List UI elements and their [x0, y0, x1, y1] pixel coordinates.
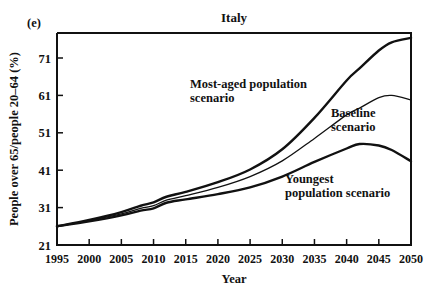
x-tick-label: 2030 — [270, 252, 294, 266]
y-tick-label: 61 — [39, 89, 52, 103]
x-tick-label: 2020 — [206, 252, 230, 266]
y-tick-label: 71 — [39, 52, 52, 66]
youngest-label-line: Youngest — [285, 172, 334, 186]
baseline-label-line: scenario — [331, 120, 375, 134]
most-aged-label: Most-aged populationscenario — [190, 77, 307, 105]
x-tick-label: 2025 — [238, 252, 262, 266]
most-aged-label-line: scenario — [190, 91, 234, 105]
x-tick-label: 2045 — [367, 252, 391, 266]
x-tick-label: 2005 — [109, 252, 133, 266]
x-axis-title: Year — [222, 272, 247, 286]
youngest-label: Youngestpopulation scenario — [285, 172, 390, 200]
figure-panel-e: (e) Italy 213141516171 19952000200520102… — [0, 0, 431, 296]
x-tick-label: 1995 — [45, 252, 69, 266]
baseline-label: Baselinescenario — [331, 106, 376, 134]
chart-title: Italy — [221, 10, 248, 25]
plot-frame — [57, 33, 411, 245]
x-tick-label: 2035 — [302, 252, 326, 266]
y-axis-title: People over 65/people 20–64 (%) — [7, 52, 21, 226]
x-tick-label: 2000 — [77, 252, 101, 266]
youngest-label-line: population scenario — [285, 186, 390, 200]
x-tick-label: 2010 — [142, 252, 166, 266]
panel-label: (e) — [27, 16, 41, 30]
x-tick-label: 2040 — [335, 252, 359, 266]
most-aged-label-line: Most-aged population — [190, 77, 307, 91]
x-tick-label: 2015 — [174, 252, 198, 266]
x-tick-label: 2050 — [399, 252, 423, 266]
y-axis-tick-labels: 213141516171 — [39, 52, 52, 253]
x-axis-tick-labels: 1995200020052010201520202025203020352040… — [45, 252, 423, 266]
y-tick-label: 31 — [39, 201, 52, 215]
y-tick-label: 51 — [39, 126, 52, 140]
y-tick-label: 21 — [39, 239, 52, 253]
baseline-label-line: Baseline — [331, 106, 376, 120]
y-tick-label: 41 — [39, 164, 52, 178]
